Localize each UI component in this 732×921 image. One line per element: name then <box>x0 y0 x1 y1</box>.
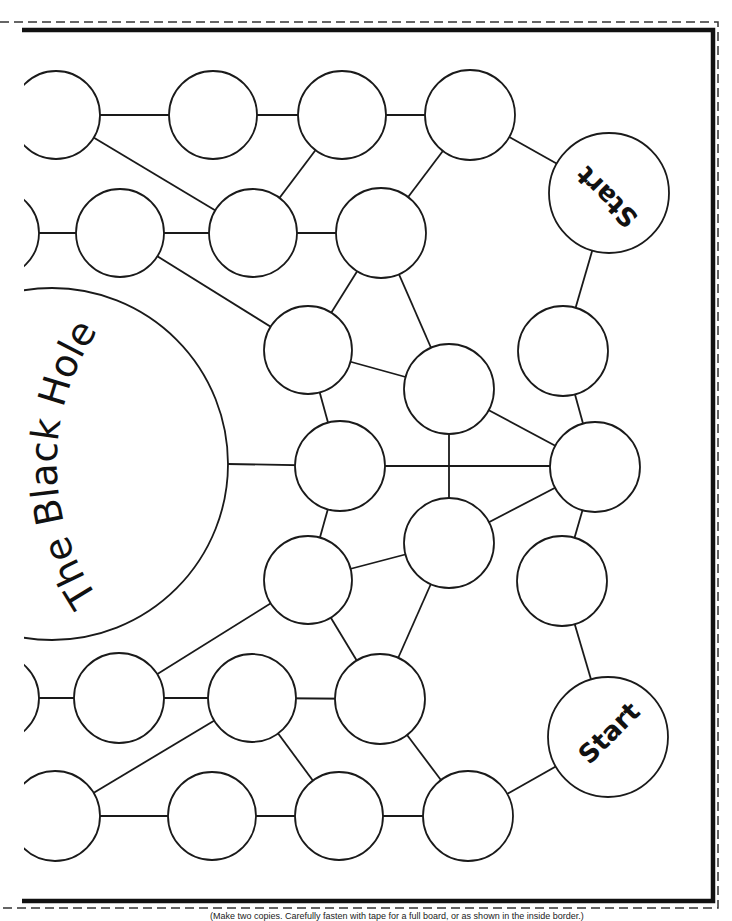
board-space[interactable] <box>295 421 385 511</box>
board-space[interactable] <box>0 189 39 277</box>
board-space[interactable] <box>335 654 425 744</box>
board-space[interactable] <box>550 422 640 512</box>
board-space[interactable] <box>12 71 100 159</box>
start-space-top[interactable]: Start <box>549 133 669 253</box>
board-space[interactable] <box>298 71 386 159</box>
black-hole[interactable]: The Black Hole <box>0 288 228 640</box>
board-space[interactable] <box>169 71 257 159</box>
board-space[interactable] <box>423 771 513 861</box>
board-space[interactable] <box>0 654 39 742</box>
board-space[interactable] <box>404 344 494 434</box>
board-space[interactable] <box>209 189 297 277</box>
board-space[interactable] <box>404 498 494 588</box>
board-space[interactable] <box>517 536 607 626</box>
board-space[interactable] <box>425 70 515 160</box>
footer-note: (Make two copies. Carefully fasten with … <box>210 911 584 921</box>
board-space[interactable] <box>264 306 352 394</box>
board-space[interactable] <box>74 653 164 743</box>
board-space[interactable] <box>10 771 100 861</box>
board-space[interactable] <box>168 772 256 860</box>
board-space[interactable] <box>518 306 608 396</box>
start-space-bottom[interactable]: Start <box>548 677 668 797</box>
board-space[interactable] <box>76 189 164 277</box>
board-space[interactable] <box>264 536 352 624</box>
board-space[interactable] <box>336 188 426 278</box>
board-space[interactable] <box>295 772 383 860</box>
board-space[interactable] <box>208 654 296 742</box>
